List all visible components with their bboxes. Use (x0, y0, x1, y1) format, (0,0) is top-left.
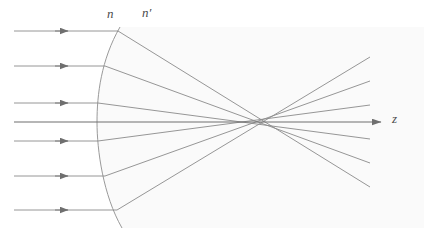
optical-axis-z-label: z (392, 112, 397, 125)
refraction-diagram-figure: n n′ z (0, 0, 424, 240)
refractive-index-n-prime-label: n′ (142, 6, 151, 19)
refractive-medium-region (97, 27, 424, 228)
refractive-index-n-label: n (107, 7, 114, 20)
incident-ray-arrowheads-group (55, 31, 68, 210)
diagram-canvas (0, 0, 424, 240)
